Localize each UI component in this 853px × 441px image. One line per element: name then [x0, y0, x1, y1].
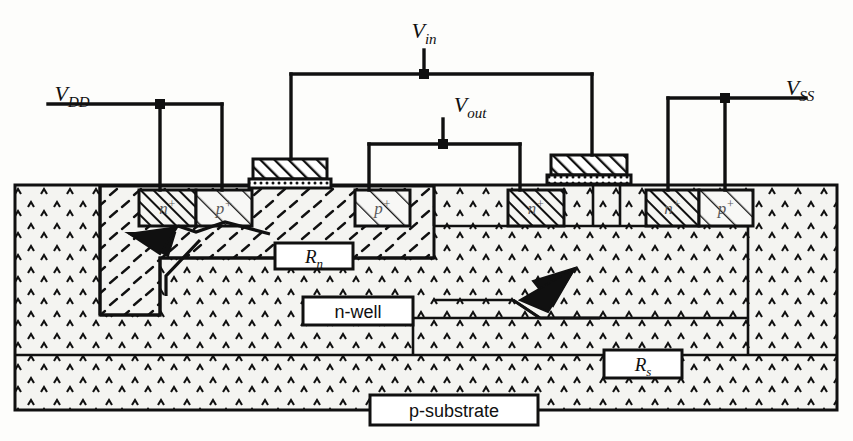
psub-label-text: p-substrate — [409, 401, 499, 421]
diffusion-n-plus-left: n+ — [139, 190, 196, 226]
gate-pmos-oxide — [249, 179, 331, 188]
node-vin — [419, 69, 429, 79]
rn-label: Rn — [275, 243, 353, 271]
gate-nmos-oxide — [547, 175, 631, 184]
diffusion-n-plus-mid: n+ — [508, 190, 564, 226]
node-vdd — [155, 99, 165, 109]
diffusion-n-plus-right: n+ — [646, 190, 699, 226]
node-vss — [720, 93, 730, 103]
gate-nmos-poly — [551, 155, 627, 175]
rs-label: Rs — [604, 350, 682, 379]
diffusion-p-plus-mid: p+ — [355, 190, 410, 226]
nwell-label: n-well — [303, 297, 413, 325]
psub-label: p-substrate — [370, 395, 538, 425]
gate-nmos — [547, 155, 631, 184]
gate-pmos — [249, 159, 331, 188]
diffusion-p-plus-left: p+ — [196, 190, 252, 226]
diffusion-p-plus-right: p+ — [699, 190, 753, 226]
node-vout — [438, 139, 448, 149]
gate-pmos-poly — [253, 159, 327, 179]
diagram-canvas: n+p+p+n+n+p+ — [0, 0, 853, 441]
nwell-label-text: n-well — [334, 302, 381, 322]
cmos-cross-section-svg: n+p+p+n+n+p+ — [0, 0, 853, 441]
